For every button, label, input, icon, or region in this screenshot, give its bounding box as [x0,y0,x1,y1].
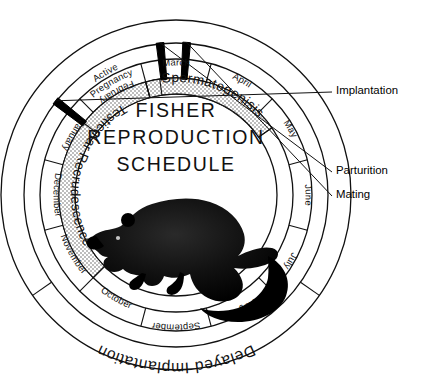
month-separator [80,99,93,112]
title-line-3: SCHEDULE [117,153,236,175]
month-label-september: September [151,320,201,333]
month-label-december: December [51,172,64,217]
event-label-implantation: Implantation [336,84,398,96]
month-separator [289,225,307,230]
month-label-june: June [303,184,314,206]
month-label-april: April [231,70,254,90]
month-separator [141,64,146,82]
month-separator [141,308,146,326]
month-separator [45,225,63,230]
reproduction-wheel: JanuaryFebruaryMarchAprilMayJuneJulyAugu… [0,0,442,387]
event-label-mating: Mating [336,188,370,200]
outer-phase-separator [33,282,52,295]
month-separator [45,160,63,165]
fisher-reproduction-schedule-diagram: JanuaryFebruaryMarchAprilMayJuneJulyAugu… [0,0,442,387]
title-line-2: REPRODUCTION [87,126,264,148]
event-label-parturition: Parturition [336,164,388,176]
month-label-october: October [99,284,134,310]
title-line-1: FISHER [135,99,216,121]
month-label-july: July [282,251,301,272]
month-separator [80,278,93,291]
outer-phase-separator [301,282,320,295]
